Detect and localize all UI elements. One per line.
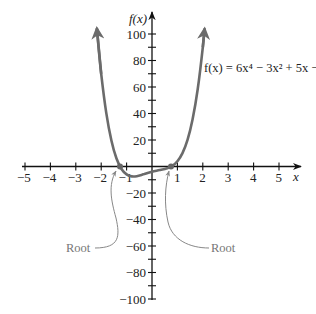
y-tick-label: 60 — [133, 80, 146, 95]
x-tick-label: 4 — [250, 170, 257, 185]
y-tick-label: 20 — [133, 133, 146, 148]
x-tick-label: 1 — [174, 170, 181, 185]
y-tick-label: −80 — [126, 265, 146, 280]
curve-arrow-left-icon — [97, 29, 101, 74]
function-curve — [97, 29, 205, 177]
y-tick-label: 100 — [127, 27, 147, 42]
y-tick-label: 40 — [133, 106, 146, 121]
x-tick-label: 3 — [225, 170, 232, 185]
y-tick-label: −100 — [119, 292, 146, 307]
x-axis: −5−4−3−2−112345 x — [17, 163, 301, 185]
y-axis-label: f(x) — [129, 11, 147, 26]
x-tick-label: −5 — [17, 170, 31, 185]
x-tick-label: 2 — [199, 170, 206, 185]
root-label-left: Root — [66, 241, 91, 255]
x-tick-label: −2 — [93, 170, 107, 185]
x-tick-label: −4 — [42, 170, 56, 185]
x-tick-label: 5 — [276, 170, 283, 185]
root-label-right: Root — [211, 241, 236, 255]
curve-arrow-right-icon — [203, 29, 205, 47]
y-axis: 10080604020−20−40−60−80−100 f(x) — [119, 11, 156, 307]
x-axis-label: x — [292, 169, 299, 184]
x-tick-label: −3 — [68, 170, 82, 185]
y-tick-label: −60 — [126, 239, 146, 254]
function-graph: −5−4−3−2−112345 x 10080604020−20−40−60−8… — [0, 0, 316, 314]
equation-label: f(x) = 6x⁴ − 3x² + 5x − 4 — [204, 61, 316, 75]
y-tick-label: −40 — [126, 212, 146, 227]
y-tick-label: 80 — [133, 53, 146, 68]
y-tick-label: −20 — [126, 186, 146, 201]
root-point-left — [117, 164, 123, 170]
root-point-right — [168, 164, 174, 170]
